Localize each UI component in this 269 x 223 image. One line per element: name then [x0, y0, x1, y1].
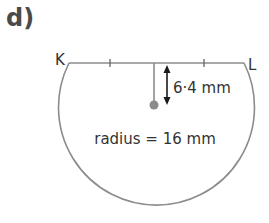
- point-label-k: K: [55, 51, 66, 69]
- circle-segment-diagram: K L 6·4 mm radius = 16 mm: [0, 0, 269, 223]
- radius-label: radius = 16 mm: [94, 130, 216, 148]
- double-arrow-icon: [164, 65, 171, 105]
- point-label-l: L: [248, 56, 257, 74]
- centre-dot: [150, 101, 159, 110]
- distance-label: 6·4 mm: [173, 79, 231, 97]
